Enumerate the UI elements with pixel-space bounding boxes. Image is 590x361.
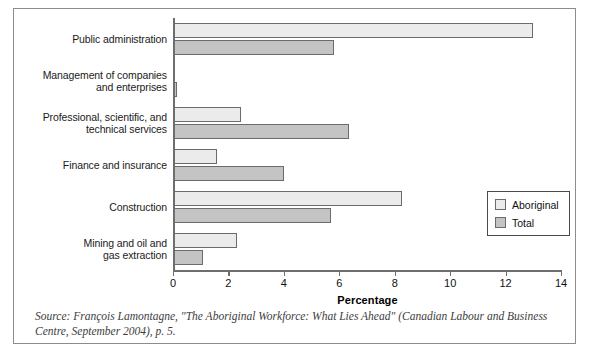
- category-label-0: Public administration: [17, 33, 167, 46]
- value-axis-line: [173, 270, 562, 272]
- x-axis-title: Percentage: [173, 294, 562, 306]
- legend-swatch-aboriginal: [495, 199, 506, 210]
- legend-item-total: Total: [495, 215, 569, 230]
- bar-total-5: [173, 250, 203, 266]
- x-tick-0: [173, 270, 174, 276]
- bar-total-4: [173, 208, 331, 224]
- bar-total-0: [173, 40, 334, 56]
- category-label-line: Professional, scientific, and: [17, 111, 167, 124]
- category-label-line: Public administration: [17, 33, 167, 46]
- category-axis-line: [173, 18, 175, 270]
- category-label-3: Finance and insurance: [17, 159, 167, 172]
- chart-legend: Aboriginal Total: [487, 191, 570, 236]
- legend-swatch-total: [495, 217, 506, 228]
- x-tick-4: [284, 270, 285, 276]
- source-note: Source: François Lamontagne, "The Aborig…: [35, 309, 555, 339]
- bar-aboriginal-2: [173, 107, 241, 123]
- category-label-line: Mining and oil and: [17, 237, 167, 250]
- bar-aboriginal-5: [173, 233, 237, 249]
- x-tick-14: [561, 270, 562, 276]
- x-tick-label-8: 8: [380, 277, 410, 289]
- category-label-5: Mining and oil andgas extraction: [17, 237, 167, 262]
- x-tick-10: [450, 270, 451, 276]
- category-label-line: gas extraction: [17, 249, 167, 262]
- category-label-line: technical services: [17, 123, 167, 136]
- bar-chart: Public administrationManagement of compa…: [14, 9, 577, 291]
- category-label-line: Construction: [17, 201, 167, 214]
- figure-frame: Public administrationManagement of compa…: [13, 8, 576, 344]
- x-tick-label-2: 2: [213, 277, 243, 289]
- category-label-1: Management of companiesand enterprises: [17, 69, 167, 94]
- category-axis-labels: Public administrationManagement of compa…: [14, 18, 167, 270]
- x-tick-label-6: 6: [324, 277, 354, 289]
- legend-label-aboriginal: Aboriginal: [512, 199, 559, 211]
- bar-aboriginal-0: [173, 23, 533, 39]
- x-tick-2: [228, 270, 229, 276]
- bar-aboriginal-4: [173, 191, 402, 207]
- x-tick-8: [395, 270, 396, 276]
- x-tick-label-10: 10: [435, 277, 465, 289]
- category-label-line: Finance and insurance: [17, 159, 167, 172]
- bar-aboriginal-3: [173, 149, 217, 165]
- legend-item-aboriginal: Aboriginal: [495, 197, 569, 212]
- x-tick-label-4: 4: [269, 277, 299, 289]
- category-label-line: and enterprises: [17, 81, 167, 94]
- bar-total-2: [173, 124, 349, 140]
- x-tick-label-0: 0: [158, 277, 188, 289]
- x-tick-label-12: 12: [491, 277, 521, 289]
- category-label-4: Construction: [17, 201, 167, 214]
- category-label-2: Professional, scientific, andtechnical s…: [17, 111, 167, 136]
- x-tick-12: [506, 270, 507, 276]
- category-label-line: Management of companies: [17, 69, 167, 82]
- x-tick-label-14: 14: [546, 277, 576, 289]
- legend-label-total: Total: [512, 217, 534, 229]
- bar-total-3: [173, 166, 284, 182]
- x-tick-6: [339, 270, 340, 276]
